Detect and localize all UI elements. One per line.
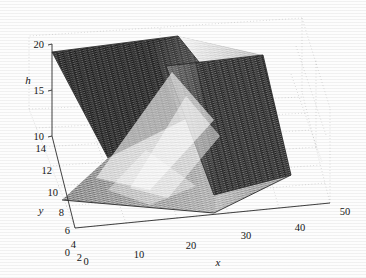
h-tick-label: 20 [34,39,45,50]
surface-plot-figure: 20 15 10 h 14 12 10 8 6 4 2 0 y 0 10 20 … [0,0,366,278]
y-tick-label: 2 [77,252,82,263]
y-tick-label: 8 [59,207,64,218]
y-tick-label: 4 [71,239,77,250]
y-axis-ticks: 14 12 10 8 6 4 2 0 [36,143,83,263]
x-tick-label: 10 [134,249,145,260]
x-tick-label: 50 [340,206,351,217]
x-tick-label: 0 [83,256,88,267]
x-axis-label: x [215,256,221,268]
y-tick-label: 10 [48,187,59,198]
h-tick-label: 15 [34,85,45,96]
x-tick-label: 20 [186,240,197,251]
h-axis-ticks: 20 15 10 [34,39,45,142]
y-tick-label: 14 [36,143,47,154]
y-tick-label: 6 [65,225,70,236]
x-tick-label: 40 [295,222,306,233]
surface-mesh [52,36,291,213]
y-axis-label: y [38,204,44,216]
y-tick-label: 12 [42,165,53,176]
h-axis-label: h [25,74,31,86]
y-tick-label-zero: 0 [65,247,70,258]
x-tick-label: 30 [241,230,252,241]
plot-canvas: 20 15 10 h 14 12 10 8 6 4 2 0 y 0 10 20 … [0,0,366,278]
h-tick-label: 10 [34,131,45,142]
